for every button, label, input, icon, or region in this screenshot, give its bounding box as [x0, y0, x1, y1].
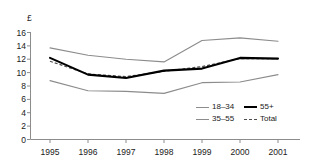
legend-swatch-line-icon — [196, 119, 209, 120]
legend-entry-18-34: 18–34 — [196, 101, 240, 113]
legend-swatch-dashed-line-icon — [244, 119, 257, 120]
legend-label-35-55: 35–55 — [212, 115, 234, 123]
x-axis-ticks — [50, 140, 278, 144]
plot-area — [0, 0, 309, 162]
legend-entry-35-55: 35–55 — [196, 113, 240, 125]
legend-label-total: Total — [260, 115, 277, 123]
legend-swatch-line-icon — [244, 106, 257, 108]
legend-swatch-line-icon — [196, 107, 209, 108]
legend-entry-total: Total — [244, 113, 288, 125]
legend-label-55-plus: 55+ — [260, 103, 274, 111]
series-line-18-34 — [50, 75, 278, 94]
chart-legend: 18–34 55+ 35–55 Total — [196, 101, 300, 125]
legend-label-18-34: 18–34 — [212, 103, 234, 111]
legend-entry-55-plus: 55+ — [244, 101, 288, 113]
series-line-55-plus — [50, 58, 278, 78]
line-chart: £ 16 14 12 10 8 6 4 2 0 1995 1996 1997 1… — [0, 0, 309, 162]
y-axis-ticks — [27, 33, 31, 140]
